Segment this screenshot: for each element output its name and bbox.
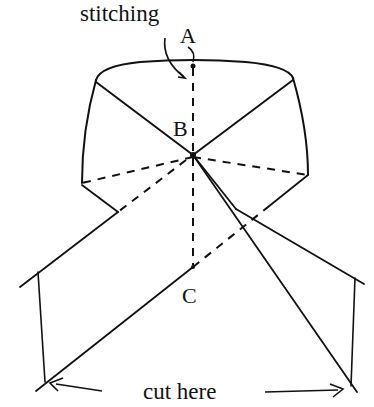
left-side: [82, 80, 96, 183]
stitching-label: stitching: [80, 2, 159, 25]
point-b-label: B: [173, 118, 188, 140]
point-c-label: C: [182, 285, 197, 307]
point-a-label: A: [180, 25, 196, 47]
rim-top: [96, 60, 293, 80]
cut-here-label: cut here: [143, 380, 216, 403]
mobius-strip-diagram: [0, 0, 374, 407]
right-side: [293, 78, 308, 175]
